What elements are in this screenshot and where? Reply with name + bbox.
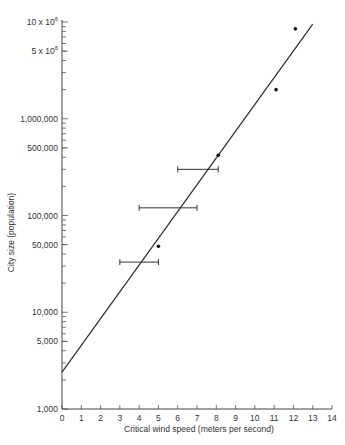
- x-axis-ticks: 01234567891011121314: [60, 405, 337, 423]
- y-tick-label: 50,000: [32, 240, 58, 250]
- y-tick-label: 1,000,000: [20, 114, 58, 124]
- y-tick-label: 10 x 106: [27, 16, 59, 27]
- error-bar: [178, 166, 219, 172]
- y-axis-ticks: 1,0005,00010,00050,000100,000500,0001,00…: [20, 16, 68, 414]
- x-tick-label: 6: [175, 413, 180, 423]
- chart: 1,0005,00010,00050,000100,000500,0001,00…: [0, 0, 345, 445]
- y-minor-ticks: [62, 26, 66, 379]
- x-tick-label: 9: [233, 413, 238, 423]
- x-tick-label: 13: [308, 413, 318, 423]
- y-tick-label: 5 x 106: [32, 45, 59, 56]
- error-bars: [120, 166, 218, 265]
- data-point: [216, 153, 220, 157]
- x-tick-label: 5: [156, 413, 161, 423]
- data-point: [294, 27, 298, 31]
- x-tick-label: 11: [270, 413, 279, 423]
- x-tick-label: 8: [214, 413, 219, 423]
- y-tick-label: 10,000: [32, 307, 58, 317]
- data-points: [157, 27, 298, 248]
- x-tick-label: 2: [98, 413, 103, 423]
- y-tick-label-exponent: 6: [55, 16, 59, 22]
- x-tick-label: 14: [327, 413, 337, 423]
- x-tick-label: 3: [117, 413, 122, 423]
- y-tick-label: 1,000: [37, 404, 59, 414]
- x-tick-label: 0: [60, 413, 65, 423]
- y-tick-label: 100,000: [27, 211, 58, 221]
- data-point: [157, 245, 161, 249]
- error-bar: [139, 205, 197, 211]
- x-tick-label: 4: [137, 413, 142, 423]
- y-tick-label: 500,000: [27, 143, 58, 153]
- x-tick-label: 12: [289, 413, 299, 423]
- y-tick-label: 5,000: [37, 336, 59, 346]
- x-tick-label: 1: [79, 413, 84, 423]
- data-point: [274, 88, 278, 92]
- regression-line: [62, 24, 313, 372]
- x-axis-title: Critical wind speed (meters per second): [124, 424, 274, 434]
- y-tick-label-exponent: 6: [55, 45, 59, 51]
- x-tick-label: 10: [250, 413, 260, 423]
- y-axis-title: City size (population): [6, 193, 16, 273]
- x-tick-label: 7: [195, 413, 200, 423]
